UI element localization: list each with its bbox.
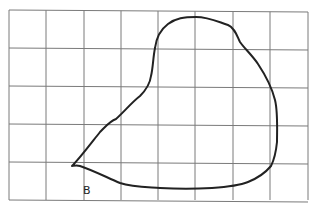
grid-horizontal-line (9, 200, 308, 202)
point-b-label: B (83, 185, 91, 196)
grid-diagram (0, 0, 313, 210)
